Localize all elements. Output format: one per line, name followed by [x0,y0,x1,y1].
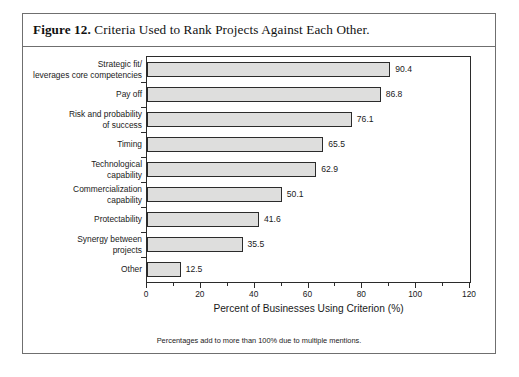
x-axis-minor-tick [388,283,389,286]
bar-value-label: 90.4 [395,65,412,74]
x-axis-tick-label: 20 [195,290,204,298]
bar-value-label: 86.8 [386,90,403,99]
x-axis-title: Percent of Businesses Using Criterion (%… [146,303,471,314]
bar-value-label: 76.1 [357,115,374,124]
bar-value-label: 12.5 [186,265,203,274]
bar [147,187,282,202]
x-axis-tick-label: 60 [303,290,312,298]
figure-container: Figure 12. Criteria Used to Rank Project… [22,13,496,354]
x-axis-tick-label: 80 [357,290,366,298]
x-axis-minor-tick [173,283,174,286]
y-axis-tick [141,182,146,183]
bar [147,212,259,227]
category-label: Strategic fit/ leverages core competenci… [27,59,142,79]
category-label: Pay off [27,89,142,99]
bar [147,137,323,152]
y-axis-tick [141,157,146,158]
bar-value-label: 65.5 [328,140,345,149]
category-label: Synergy between projects [27,234,142,254]
bar [147,112,352,127]
category-label: Risk and probability of success [27,109,142,129]
bar-value-label: 50.1 [287,190,304,199]
y-axis-tick [141,232,146,233]
category-label: Protectability [27,214,142,224]
chart-plot-area: Strategic fit/ leverages core competenci… [23,47,495,354]
figure-caption: Criteria Used to Rank Projects Against E… [94,22,369,37]
x-axis-tick-label: 0 [144,290,149,298]
x-axis-major-tick [469,283,470,288]
y-axis-tick [141,82,146,83]
y-axis-tick [141,257,146,258]
bar [147,162,316,177]
category-axis-labels: Strategic fit/ leverages core competenci… [23,57,142,282]
x-axis-minor-tick [442,283,443,286]
x-axis-tick-label: 120 [462,290,476,298]
figure-footnote: Percentages add to more than 100% due to… [23,336,495,345]
x-axis-major-tick [200,283,201,288]
x-axis-tick-label: 100 [408,290,422,298]
bar-value-label: 41.6 [264,215,281,224]
bar [147,237,243,252]
x-axis-major-tick [146,283,147,288]
x-axis-minor-tick [334,283,335,286]
x-axis-major-tick [415,283,416,288]
figure-number: Figure 12. [33,22,91,37]
x-axis-major-tick [308,283,309,288]
y-axis-tick [141,132,146,133]
bar [147,62,390,77]
x-axis-tick-label: 40 [249,290,258,298]
category-label: Other [27,264,142,274]
bar [147,87,381,102]
category-label: Commercialization capability [27,184,142,204]
y-axis-tick [141,107,146,108]
bar-series: 90.486.876.165.562.950.141.635.512.5 [147,57,470,282]
x-axis-major-tick [254,283,255,288]
x-axis-minor-tick [281,283,282,286]
x-axis-minor-tick [227,283,228,286]
bar [147,262,181,277]
x-axis-major-tick [361,283,362,288]
bar-value-label: 35.5 [248,240,265,249]
category-label: Timing [27,139,142,149]
figure-title: Figure 12. Criteria Used to Rank Project… [33,22,370,38]
bar-value-label: 62.9 [321,165,338,174]
category-label: Technological capability [27,159,142,179]
y-axis-tick [141,207,146,208]
